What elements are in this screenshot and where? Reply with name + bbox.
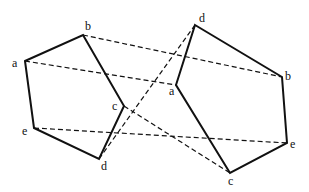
right-vertex-label-b: b: [285, 69, 291, 83]
dashed-line-c-c: [124, 106, 230, 173]
left-vertex-label-d: d: [101, 159, 107, 173]
right-vertex-label-e: e: [290, 137, 295, 151]
left-vertex-label-e: e: [22, 124, 27, 138]
dashed-line-b-b: [83, 35, 282, 77]
left-pentagon: [25, 35, 124, 159]
right-vertex-label-d: d: [199, 11, 205, 25]
right-vertex-label-c: c: [228, 174, 233, 188]
right-pentagon: [176, 25, 287, 173]
dashed-correspondence-lines: [25, 25, 287, 173]
dashed-line-e-e: [34, 128, 287, 143]
left-vertex-label-b: b: [85, 19, 91, 33]
left-vertex-label-a: a: [12, 56, 18, 70]
left-vertex-label-c: c: [112, 99, 117, 113]
pentagon-correspondence-diagram: abcdedbeca: [0, 0, 309, 192]
right-vertex-label-a: a: [169, 84, 175, 98]
